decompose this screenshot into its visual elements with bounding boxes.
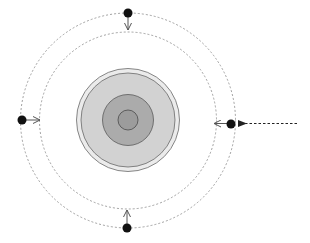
satellite-right — [214, 120, 236, 129]
satellite-left — [18, 116, 41, 125]
orbit-diagram — [0, 0, 310, 243]
satellite-dot-icon — [124, 9, 133, 18]
satellite-bottom — [123, 210, 132, 233]
central-body — [77, 69, 180, 172]
satellite-dot-icon — [227, 120, 236, 129]
satellite-dot-icon — [18, 116, 27, 125]
satellite-top — [124, 9, 133, 31]
satellite-dot-icon — [123, 224, 132, 233]
inner-core-disk — [118, 110, 138, 130]
